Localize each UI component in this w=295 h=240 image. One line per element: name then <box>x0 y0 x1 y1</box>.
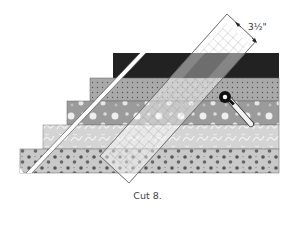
measurement-label: 3½" <box>248 22 267 32</box>
figure-caption: Cut 8. <box>0 190 295 201</box>
